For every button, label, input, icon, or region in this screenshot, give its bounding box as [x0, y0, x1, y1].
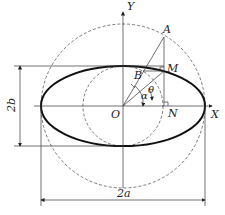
label-y-axis: Y: [127, 0, 136, 13]
label-point-a: A: [162, 23, 171, 36]
label-x-axis: X: [210, 108, 220, 121]
label-point-b: B: [133, 69, 142, 82]
ellipse-diagram: Y X O A B M N α θ 2b 2a: [0, 0, 225, 215]
label-point-n: N: [167, 107, 178, 120]
label-alpha: α: [141, 90, 148, 101]
tick-b: [131, 84, 135, 88]
label-point-m: M: [166, 62, 179, 75]
label-2b: 2b: [5, 98, 18, 113]
label-2a: 2a: [116, 187, 131, 200]
label-theta: θ: [148, 84, 154, 95]
right-angle-n: [164, 102, 168, 106]
label-origin: O: [111, 108, 120, 121]
